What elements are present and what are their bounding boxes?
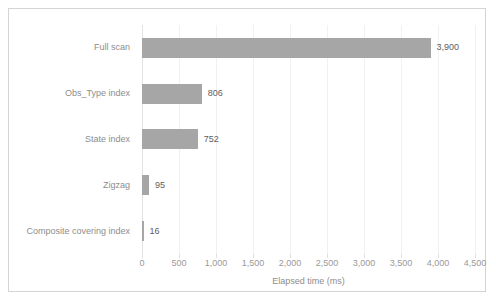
- bar-row: 95: [142, 162, 475, 208]
- x-tick-label: 4,500: [464, 259, 487, 268]
- plot-area: 3,9008067529516: [142, 25, 475, 254]
- x-tick-label: 3,000: [353, 259, 376, 268]
- bar-group: 806: [142, 84, 223, 104]
- bar-group: 16: [142, 221, 160, 241]
- x-tick-label: 2,000: [279, 259, 302, 268]
- x-tick-label: 3,500: [390, 259, 413, 268]
- bar-value-label: 3,900: [437, 43, 460, 52]
- bar: [142, 84, 202, 104]
- category-label: Obs_Type index: [9, 71, 136, 117]
- bar: [142, 221, 144, 241]
- category-label: State index: [9, 117, 136, 163]
- bar-group: 95: [142, 175, 165, 195]
- x-tick-label: 500: [171, 259, 186, 268]
- bar: [142, 175, 149, 195]
- category-label: Composite covering index: [9, 208, 136, 254]
- bar-value-label: 806: [208, 89, 223, 98]
- bar-group: 752: [142, 129, 219, 149]
- bar: [142, 129, 198, 149]
- gridline: [475, 25, 476, 254]
- category-label: Zigzag: [9, 162, 136, 208]
- bar-value-label: 752: [204, 135, 219, 144]
- bar-value-label: 16: [150, 227, 160, 236]
- bar-row: 752: [142, 117, 475, 163]
- bar-chart: 3,9008067529516 Full scanObs_Type indexS…: [0, 0, 496, 302]
- bar-group: 3,900: [142, 38, 459, 58]
- chart-frame: 3,9008067529516 Full scanObs_Type indexS…: [8, 8, 486, 292]
- x-tick-label: 1,000: [205, 259, 228, 268]
- bar-value-label: 95: [155, 181, 165, 190]
- bar: [142, 38, 431, 58]
- x-tick-label: 1,500: [242, 259, 265, 268]
- bar-row: 16: [142, 208, 475, 254]
- bar-row: 806: [142, 71, 475, 117]
- x-axis-tick-labels: 05001,0001,5002,0002,5003,0003,5004,0004…: [142, 259, 475, 273]
- x-tick-label: 4,000: [427, 259, 450, 268]
- bar-row: 3,900: [142, 25, 475, 71]
- x-tick-label: 0: [139, 259, 144, 268]
- category-label: Full scan: [9, 25, 136, 71]
- x-axis-title: Elapsed time (ms): [142, 277, 475, 286]
- category-axis-labels: Full scanObs_Type indexState indexZigzag…: [9, 25, 136, 254]
- x-tick-label: 2,500: [316, 259, 339, 268]
